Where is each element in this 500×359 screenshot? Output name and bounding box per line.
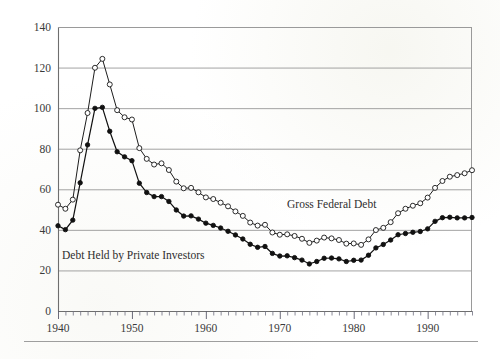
data-point: [470, 215, 474, 219]
data-point: [440, 215, 444, 219]
data-point: [248, 220, 253, 225]
data-point: [292, 255, 296, 259]
series-markers-group: [56, 56, 475, 266]
data-point: [277, 232, 282, 237]
data-point: [366, 237, 371, 242]
data-point: [263, 222, 268, 227]
data-point: [337, 257, 341, 261]
data-point: [70, 197, 75, 202]
y-axis-tick-labels: 020406080100120140: [34, 21, 52, 317]
data-point: [233, 233, 237, 237]
y-tick-label-140: 140: [34, 21, 52, 33]
data-point: [344, 259, 348, 263]
data-point: [159, 161, 164, 166]
data-point: [211, 197, 216, 202]
data-point: [344, 241, 349, 246]
data-point: [299, 236, 304, 241]
data-point: [300, 258, 304, 262]
data-point: [359, 258, 363, 262]
data-point: [410, 203, 415, 208]
data-point: [144, 156, 149, 161]
data-point: [241, 237, 245, 241]
gridlines-group: [58, 28, 472, 312]
data-point: [418, 229, 422, 233]
data-point: [322, 256, 326, 260]
data-point: [255, 245, 259, 249]
data-point: [248, 242, 252, 246]
data-point: [167, 199, 171, 203]
data-point: [292, 233, 297, 238]
x-tick-label-1960: 1960: [194, 322, 217, 334]
x-tick-label-1990: 1990: [416, 322, 439, 334]
data-point: [115, 108, 120, 113]
y-tick-label-0: 0: [45, 305, 51, 317]
data-point: [440, 178, 445, 183]
y-tick-label-20: 20: [40, 264, 52, 276]
debt-as-percent-of-gnp-line-chart: 020406080100120140 194019501960197019801…: [0, 0, 500, 359]
data-point: [181, 214, 185, 218]
data-point: [403, 231, 407, 235]
data-point: [352, 258, 356, 262]
data-point: [63, 227, 67, 231]
data-point: [107, 82, 112, 87]
data-point: [314, 238, 319, 243]
x-axis-ticks: [59, 311, 473, 319]
data-point: [240, 213, 245, 218]
data-point: [56, 202, 61, 207]
data-point: [226, 204, 231, 209]
data-point: [137, 181, 141, 185]
data-point: [174, 208, 178, 212]
data-point: [388, 220, 393, 225]
data-point: [329, 236, 334, 241]
data-point: [203, 195, 208, 200]
data-point: [85, 111, 90, 116]
data-point: [462, 171, 467, 176]
data-point: [270, 251, 274, 255]
data-point: [285, 254, 289, 258]
y-tick-label-100: 100: [34, 102, 52, 114]
data-point: [92, 65, 97, 70]
data-point: [100, 56, 105, 61]
data-point: [100, 105, 104, 109]
data-point: [373, 228, 378, 233]
series-line-debt-held-by-private-investors: [58, 107, 472, 264]
data-point: [108, 129, 112, 133]
data-point: [85, 143, 89, 147]
y-tick-label-80: 80: [40, 143, 52, 155]
data-point: [455, 216, 459, 220]
data-point: [196, 217, 200, 221]
data-point: [351, 241, 356, 246]
data-point: [425, 227, 429, 231]
data-point: [278, 254, 282, 258]
data-point: [93, 106, 97, 110]
plot-frame: [58, 27, 472, 311]
data-point: [63, 206, 68, 211]
data-point: [396, 211, 401, 216]
y-tick-label-40: 40: [40, 224, 52, 236]
data-point: [388, 238, 392, 242]
data-point: [152, 194, 156, 198]
series-lines-group: [58, 59, 472, 264]
x-tick-label-1940: 1940: [47, 322, 70, 334]
data-point: [396, 233, 400, 237]
data-point: [122, 155, 126, 159]
data-point: [211, 223, 215, 227]
data-point: [204, 221, 208, 225]
data-point: [307, 240, 312, 245]
data-point: [263, 244, 267, 248]
data-point: [366, 253, 370, 257]
data-point: [470, 168, 475, 173]
data-point: [433, 219, 437, 223]
y-tick-label-60: 60: [40, 183, 52, 195]
data-point: [71, 218, 75, 222]
debt-held-by-private-investors-label: Debt Held by Private Investors: [62, 249, 205, 262]
data-point: [152, 162, 157, 167]
chart-figure: 020406080100120140 194019501960197019801…: [0, 0, 500, 359]
data-point: [115, 150, 119, 154]
data-point: [285, 232, 290, 237]
data-point: [381, 225, 386, 230]
data-point: [336, 238, 341, 243]
gross-federal-debt-label: Gross Federal Debt: [287, 198, 377, 210]
data-point: [130, 158, 134, 162]
data-point: [374, 246, 378, 250]
